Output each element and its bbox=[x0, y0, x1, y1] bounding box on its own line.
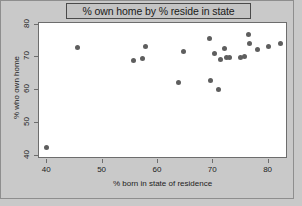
data-point bbox=[44, 145, 49, 150]
scatter-plot-figure: % own home by % reside in state % born i… bbox=[0, 0, 302, 206]
y-axis-tick-mark bbox=[34, 89, 38, 90]
plot-area bbox=[38, 22, 287, 158]
y-axis-tick-mark bbox=[34, 56, 38, 57]
data-point bbox=[222, 46, 227, 51]
data-point bbox=[140, 56, 145, 61]
y-axis-tick-mark bbox=[34, 155, 38, 156]
x-axis-tick-label: 60 bbox=[148, 165, 166, 174]
x-axis-label: % born in state of residence bbox=[38, 179, 287, 188]
x-axis-tick-mark bbox=[212, 159, 213, 163]
y-axis-tick-label: 80 bbox=[22, 17, 31, 30]
x-axis-tick-mark bbox=[46, 159, 47, 163]
y-axis-tick-label: 70 bbox=[22, 49, 31, 62]
y-axis-tick-label: 40 bbox=[22, 148, 31, 161]
data-point bbox=[212, 51, 217, 56]
x-axis-tick-label: 80 bbox=[259, 165, 277, 174]
y-axis-tick-label: 60 bbox=[22, 82, 31, 95]
data-point bbox=[227, 55, 232, 60]
data-point bbox=[176, 80, 181, 85]
chart-title-box: % own home by % reside in state bbox=[66, 3, 251, 19]
x-axis-tick-label: 50 bbox=[93, 165, 111, 174]
y-axis-tick-mark bbox=[34, 122, 38, 123]
data-point bbox=[246, 32, 251, 37]
data-point bbox=[216, 87, 221, 92]
data-point bbox=[247, 41, 252, 46]
data-point bbox=[208, 78, 213, 83]
y-axis-tick-mark bbox=[34, 24, 38, 25]
data-points-layer bbox=[39, 23, 286, 157]
x-axis-tick-mark bbox=[268, 159, 269, 163]
page-title: % own home by % reside in state bbox=[82, 5, 234, 17]
data-point bbox=[143, 44, 148, 49]
data-point bbox=[266, 44, 271, 49]
data-point bbox=[242, 54, 247, 59]
data-point bbox=[255, 47, 260, 52]
y-axis-tick-label: 50 bbox=[22, 115, 31, 128]
data-point bbox=[218, 57, 223, 62]
data-point bbox=[131, 58, 136, 63]
x-axis-tick-mark bbox=[157, 159, 158, 163]
data-point bbox=[75, 45, 80, 50]
data-point bbox=[207, 36, 212, 41]
x-axis-tick-label: 40 bbox=[37, 165, 55, 174]
data-point bbox=[181, 49, 186, 54]
x-axis-tick-mark bbox=[102, 159, 103, 163]
y-axis-label: % who own home bbox=[12, 48, 21, 128]
data-point bbox=[278, 41, 283, 46]
x-axis-tick-label: 70 bbox=[203, 165, 221, 174]
